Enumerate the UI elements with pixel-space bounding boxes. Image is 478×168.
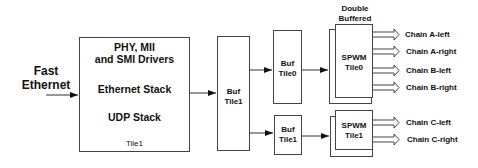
spwm-tile1: SPWM Tile1 bbox=[335, 110, 373, 150]
output-chain-b-right: Chain B-right bbox=[406, 83, 457, 93]
output-chain-a-left: Chain A-left bbox=[405, 30, 450, 40]
output-chain-a-right: Chain A-right bbox=[406, 47, 456, 57]
main-processing-block: PHY, MII and SMI Drivers Ethernet Stack … bbox=[79, 37, 190, 152]
buffer-tile1-main: Buf Tile1 bbox=[217, 36, 250, 151]
input-label: Fast Ethernet bbox=[16, 64, 76, 92]
main-block-udp-stack: UDP Stack bbox=[80, 111, 189, 123]
buffer-tile0: Buf Tile0 bbox=[273, 30, 302, 104]
output-chain-c-left: Chain C-left bbox=[406, 118, 451, 128]
buffer-tile1-secondary: Buf Tile1 bbox=[274, 115, 302, 155]
main-block-drivers: PHY, MII and SMI Drivers bbox=[80, 41, 189, 65]
main-block-tile: Tile1 bbox=[80, 139, 189, 149]
hollow-arrow-icons bbox=[373, 29, 399, 145]
output-chain-b-left: Chain B-left bbox=[406, 66, 451, 76]
main-block-ethernet-stack: Ethernet Stack bbox=[80, 83, 189, 95]
spwm-tile0: SPWM Tile0 bbox=[335, 24, 373, 98]
output-chain-c-right: Chain C-right bbox=[407, 135, 458, 145]
double-buffered-label: Double Buffered bbox=[334, 4, 376, 24]
